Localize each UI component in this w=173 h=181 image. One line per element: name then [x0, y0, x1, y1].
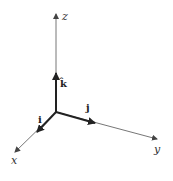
y-axis-label: y: [153, 143, 161, 156]
k-vector-label: k̂: [59, 77, 68, 89]
coordinate-system-diagram: z y x k̂ j i: [0, 0, 173, 181]
j-unit-vector: [56, 112, 95, 123]
j-vector-label: j: [85, 102, 90, 113]
z-axis-label: z: [61, 10, 68, 23]
x-axis-label: x: [11, 154, 18, 167]
i-vector-label: i: [38, 114, 42, 125]
